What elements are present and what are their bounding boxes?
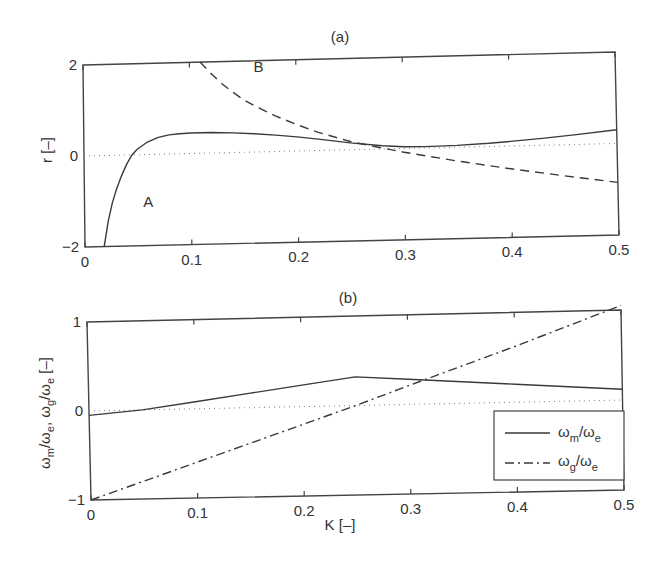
zero-reference-line (84, 144, 617, 157)
y-tick-label: −2 (62, 238, 79, 255)
panel-b: (b) 00.10.20.30.40.5−101 ωm/ωe, ωg/ωe [–… (36, 289, 634, 533)
panel-a-ylabel: r [–] (38, 137, 55, 163)
x-tick-label: 0.1 (181, 251, 202, 268)
panel-b-ylabel: ωm/ωe, ωg/ωe [–] (36, 357, 56, 469)
panel-a-axes-box (83, 52, 619, 247)
figure: (a) 00.10.20.30.40.5−202 r [–] A B (b) 0… (0, 0, 665, 565)
x-tick-label: 0.3 (400, 500, 421, 517)
x-tick-label: 0.2 (288, 248, 309, 265)
y-tick-label: 2 (69, 56, 77, 73)
series-line-dashed (200, 62, 618, 182)
y-tick-label: 0 (70, 147, 78, 164)
x-tick-label: 0.2 (294, 502, 315, 519)
series-line-solid (104, 130, 617, 247)
legend: ωm/ωe ωg/ωe (494, 411, 624, 480)
y-tick-label: 1 (73, 313, 81, 330)
curve-a-label: A (143, 193, 153, 210)
panel-a-title: (a) (331, 28, 349, 45)
curve-b-label: B (253, 58, 263, 75)
x-tick-label: 0.4 (502, 243, 523, 260)
x-tick-label: 0 (87, 506, 95, 523)
x-tick-label: 0.3 (395, 246, 416, 263)
x-tick-label: 0.4 (507, 498, 528, 515)
y-tick-label: −1 (68, 491, 85, 508)
x-tick-label: 0 (81, 253, 89, 270)
legend-box (494, 411, 624, 480)
panel-b-title: (b) (339, 289, 357, 306)
panel-b-xlabel: K [–] (325, 516, 356, 533)
x-tick-label: 0.5 (609, 241, 630, 258)
panel-a-curves (84, 62, 618, 247)
x-tick-label: 0.1 (187, 504, 208, 521)
y-tick-label: 0 (75, 402, 83, 419)
panel-a: (a) 00.10.20.30.40.5−202 r [–] A B (38, 28, 629, 270)
x-tick-label: 0.5 (614, 496, 635, 513)
